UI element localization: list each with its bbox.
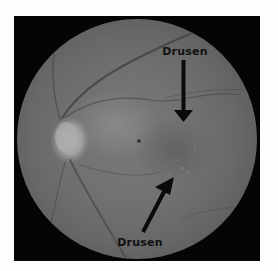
- dark-spot: [137, 139, 141, 143]
- fundus-overlay: [0, 0, 278, 271]
- drusen-label-top: Drusen: [162, 46, 207, 57]
- arrow-down-icon: [174, 60, 193, 122]
- arrow-up-right-icon: [143, 177, 174, 232]
- drusen-label-bottom: Drusen: [117, 237, 162, 248]
